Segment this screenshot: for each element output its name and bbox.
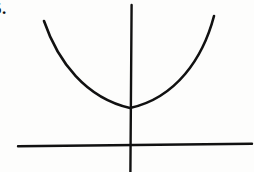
- problem-number-label: 5.: [0, 0, 7, 19]
- figure-canvas: 5.: [0, 0, 254, 172]
- y-axis-line: [130, 5, 131, 172]
- parabola-curve: [44, 16, 214, 108]
- x-axis-line: [18, 144, 252, 146]
- coordinate-plane-figure: [0, 0, 254, 172]
